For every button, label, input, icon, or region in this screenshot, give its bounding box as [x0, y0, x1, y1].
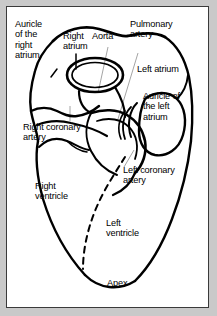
label-left-atrium: Left atrium	[137, 64, 179, 74]
label-aorta: Aorta	[92, 31, 113, 41]
pointer-auricle-right-atrium	[51, 69, 57, 77]
label-left-ventricle: Left ventricle	[106, 218, 139, 239]
conus-arteriosus	[87, 113, 118, 175]
pulmonary-artery-inner	[97, 119, 137, 159]
label-right-coronary-artery: Right coronary artery	[23, 122, 81, 143]
heart-diagram-panel: Auricle of the right atrium Right atrium…	[6, 6, 209, 308]
label-apex: Apex	[107, 278, 127, 288]
label-auricle-of-left-atrium: Auricle of the left atrium	[143, 91, 180, 122]
interventricular-groove-dashed	[83, 157, 125, 269]
aorta-arch-inner	[72, 63, 118, 88]
ascending-aorta	[79, 91, 91, 113]
label-right-atrium: Right atrium	[63, 31, 88, 52]
label-auricle-of-right-atrium: Auricle of the right atrium	[15, 19, 42, 61]
label-right-ventricle: Right ventricle	[35, 181, 68, 202]
label-pulmonary-artery: Pulmonary artery	[130, 19, 173, 40]
right-ventricle-border	[37, 141, 85, 275]
label-left-coronary-artery: Left coronary artery	[123, 165, 175, 186]
